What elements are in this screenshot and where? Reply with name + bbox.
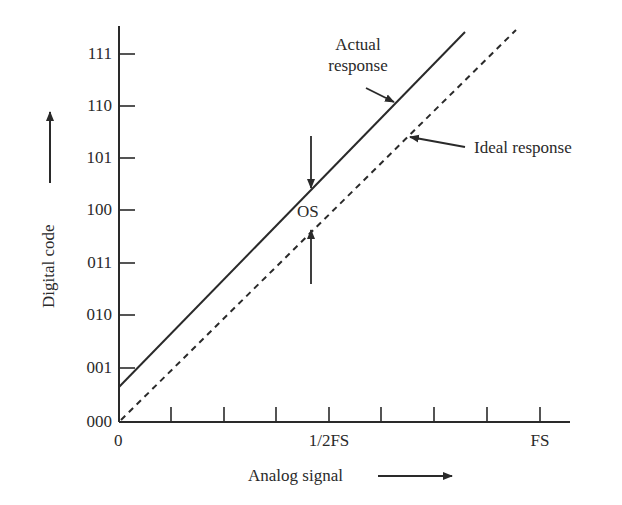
- y-tick-100: 100: [62, 201, 112, 218]
- y-tick-001: 001: [62, 359, 112, 376]
- y-tick-labels: 111 110 101 100 011 010 001 000: [60, 0, 112, 505]
- y-tick-marks: [119, 54, 135, 368]
- actual-response-label-line2: response: [318, 57, 398, 74]
- ideal-response-arrow-icon: [410, 137, 465, 147]
- x-tick-fs: FS: [520, 432, 560, 449]
- y-tick-010: 010: [62, 306, 112, 323]
- y-axis-label: Digital code: [39, 224, 59, 308]
- offset-label: OS: [297, 203, 319, 220]
- ideal-response-label: Ideal response: [474, 139, 572, 156]
- y-tick-101: 101: [62, 149, 112, 166]
- y-tick-111: 111: [62, 45, 112, 62]
- x-tick-half-fs: 1/2FS: [289, 432, 369, 449]
- actual-response-label-line1: Actual: [318, 36, 398, 53]
- y-tick-000: 000: [62, 413, 112, 430]
- y-tick-110: 110: [62, 97, 112, 114]
- actual-response-line: [119, 32, 465, 387]
- x-tick-zero: 0: [114, 432, 123, 449]
- y-tick-011: 011: [62, 254, 112, 271]
- ideal-response-line: [121, 30, 516, 420]
- x-axis-label: Analog signal: [248, 467, 343, 484]
- x-tick-marks: [171, 407, 540, 422]
- actual-response-arrow-icon: [366, 88, 394, 102]
